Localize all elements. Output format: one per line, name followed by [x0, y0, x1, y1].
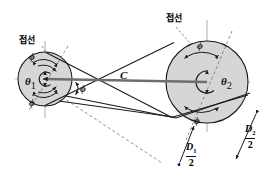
- radius-small-denominator: 2: [186, 158, 196, 168]
- figure-canvas: 접선 접선 C θ1 θ2 ϕ ϕ ϕ ϕ ϕ D1 2 D2 2: [0, 0, 277, 177]
- tangent-label-left: 접선: [19, 36, 35, 45]
- radius-small-numerator: D1: [186, 142, 196, 155]
- phi-label-lower-right: ϕ: [194, 116, 200, 126]
- radius-large-label: D2 2: [245, 124, 255, 150]
- radius-large-denominator: 2: [245, 140, 255, 150]
- center-distance-label: C: [120, 70, 127, 81]
- theta-1-subscript: 1: [31, 80, 36, 91]
- theta-2-subscript: 2: [227, 80, 232, 91]
- phi-arc-crossing: [76, 82, 78, 95]
- tangent-label-right: 접선: [166, 14, 182, 23]
- phi-label-crossing: ϕ: [80, 84, 86, 94]
- radius-small-label: D1 2: [186, 142, 196, 168]
- theta-1-label: θ1: [25, 72, 36, 92]
- radius-large-numerator: D2: [245, 124, 255, 137]
- pulley-geometry-diagram: [0, 0, 277, 177]
- theta-2-label: θ2: [221, 72, 232, 92]
- phi-label-upper-right: ϕ: [197, 41, 203, 51]
- tangent-leader-lines: [42, 27, 190, 52]
- phi-label-lower-left: ϕ: [29, 98, 35, 108]
- phi-label-upper-left: ϕ: [29, 52, 35, 62]
